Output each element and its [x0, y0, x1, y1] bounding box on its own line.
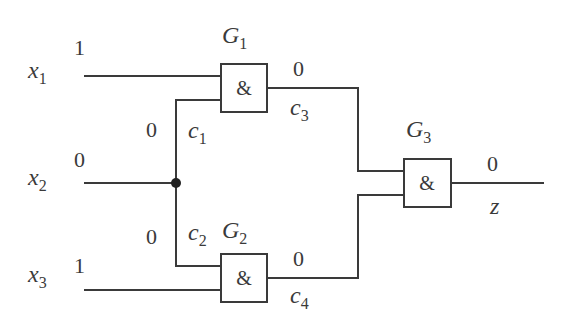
wire-c4 — [267, 195, 404, 278]
value-x3: 1 — [74, 253, 85, 278]
label-x3: x3 — [27, 261, 47, 291]
gate-g2: & — [221, 254, 267, 302]
wires — [84, 76, 544, 290]
label-c2: c2 — [188, 219, 207, 249]
gate-g1: & — [221, 64, 267, 112]
gate-g2-symbol: & — [236, 267, 252, 289]
label-c1: c1 — [188, 117, 207, 147]
label-g1: G1 — [222, 22, 247, 52]
gate-g1-symbol: & — [236, 77, 252, 99]
label-x2: x2 — [27, 164, 47, 194]
label-z: z — [489, 193, 500, 219]
value-c3: 0 — [293, 56, 304, 81]
gate-g3-symbol: & — [419, 172, 435, 194]
value-x2: 0 — [74, 147, 85, 172]
label-x1: x1 — [27, 57, 47, 87]
label-c3: c3 — [290, 94, 309, 124]
label-g3: G3 — [406, 116, 431, 146]
wire-c3 — [267, 88, 404, 171]
label-g2: G2 — [222, 217, 247, 247]
value-c1: 0 — [146, 117, 157, 142]
logic-circuit-diagram: & & & x1 1 x2 0 x3 1 0 c1 0 c2 G1 G2 G3 … — [0, 0, 567, 325]
value-x1: 1 — [74, 35, 85, 60]
value-c4: 0 — [293, 246, 304, 271]
gate-g3: & — [404, 159, 451, 207]
junction-dot — [171, 178, 181, 188]
value-c2: 0 — [146, 224, 157, 249]
value-z: 0 — [487, 151, 498, 176]
label-c4: c4 — [290, 282, 309, 312]
